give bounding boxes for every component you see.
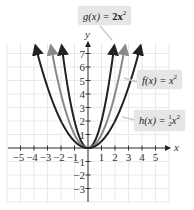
svg-text:1: 1 xyxy=(99,151,105,163)
g-name: g(x) = xyxy=(83,11,112,22)
f-exp: 2 xyxy=(174,73,178,81)
svg-text:−2: −2 xyxy=(73,169,85,181)
legend-g: g(x) = 2x2 xyxy=(78,6,131,25)
svg-text:4: 4 xyxy=(139,151,145,163)
h-name: h(x) = xyxy=(139,115,168,126)
svg-text:3: 3 xyxy=(126,151,132,163)
legend-h: h(x) = 12x2 xyxy=(134,110,185,131)
svg-text:−3: −3 xyxy=(40,151,52,163)
svg-text:−5: −5 xyxy=(13,151,25,163)
svg-text:2: 2 xyxy=(80,115,86,127)
f-name: f(x) = xyxy=(142,75,169,86)
svg-text:5: 5 xyxy=(153,151,159,163)
g-expr: 2x xyxy=(112,11,123,22)
svg-text:y: y xyxy=(84,28,90,40)
svg-text:6: 6 xyxy=(80,61,86,73)
svg-text:−4: −4 xyxy=(26,151,38,163)
svg-text:2: 2 xyxy=(112,151,118,163)
svg-text:7: 7 xyxy=(80,48,86,60)
svg-text:4: 4 xyxy=(80,88,86,100)
g-exp: 2 xyxy=(123,9,127,17)
h-exp: 2 xyxy=(176,113,180,121)
legend-f: f(x) = x2 xyxy=(137,70,182,89)
svg-text:−3: −3 xyxy=(73,183,85,195)
svg-text:3: 3 xyxy=(80,102,86,114)
svg-text:x: x xyxy=(173,141,179,153)
svg-text:5: 5 xyxy=(80,75,86,87)
svg-text:−1: −1 xyxy=(73,156,85,168)
svg-text:−2: −2 xyxy=(53,151,65,163)
parabola-chart: −5−4−3−2−1123457654321−1−2−3xy xyxy=(0,0,194,210)
